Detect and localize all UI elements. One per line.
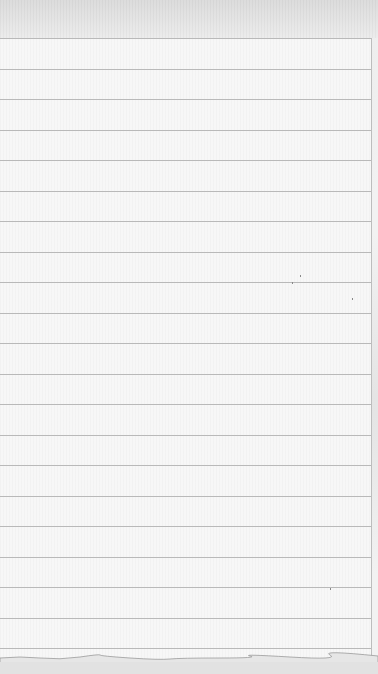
rule-line <box>0 465 371 466</box>
paper-speck <box>300 275 301 277</box>
paper-speck <box>292 282 293 284</box>
paper-bottom-margin <box>0 662 378 674</box>
rule-line <box>0 69 371 70</box>
rule-line <box>0 587 371 588</box>
rule-line <box>0 160 371 161</box>
rule-line <box>0 252 371 253</box>
lined-sheet <box>0 38 372 662</box>
notepad-paper <box>0 0 378 674</box>
paper-speck <box>352 298 353 300</box>
rule-line <box>0 282 371 283</box>
rule-line <box>0 496 371 497</box>
rule-line <box>0 38 371 39</box>
rule-line <box>0 404 371 405</box>
rule-line <box>0 99 371 100</box>
rule-line <box>0 221 371 222</box>
paper-speck <box>330 588 331 590</box>
rule-line <box>0 374 371 375</box>
rule-line <box>0 313 371 314</box>
rule-line <box>0 557 371 558</box>
rule-line <box>0 526 371 527</box>
rule-line <box>0 191 371 192</box>
rule-line <box>0 648 371 649</box>
rule-line <box>0 618 371 619</box>
rule-line <box>0 343 371 344</box>
rule-line <box>0 130 371 131</box>
paper-top-binding <box>0 0 378 38</box>
rule-line <box>0 435 371 436</box>
